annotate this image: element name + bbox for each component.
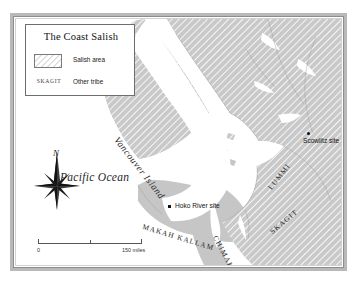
map-legend: The Coast Salish Salish area SKAGIT Othe… (25, 24, 135, 96)
compass-rose-icon (32, 150, 82, 212)
legend-key-skagit: SKAGIT (32, 78, 66, 84)
scale-tick-start (38, 239, 39, 244)
scale-bar (38, 239, 142, 245)
scale-tick-end (141, 239, 142, 244)
legend-swatch-hatched (34, 54, 62, 68)
legend-label-salish-area: Salish area (73, 56, 105, 63)
site-marker-scowlitz[interactable] (307, 132, 310, 135)
site-marker-hoko-river[interactable] (168, 205, 171, 208)
legend-title: The Coast Salish (26, 31, 136, 42)
legend-row-other-tribe: SKAGIT Other tribe (26, 75, 136, 91)
compass-rose: N (32, 150, 82, 212)
scale-tick-mid (90, 240, 91, 243)
legend-row-salish-area: Salish area (26, 53, 136, 69)
map-figure: Pacific Ocean Vancouver Island LUMMI SKA… (0, 0, 357, 283)
scale-bar-line (38, 243, 142, 244)
legend-label-other-tribe: Other tribe (73, 78, 103, 85)
